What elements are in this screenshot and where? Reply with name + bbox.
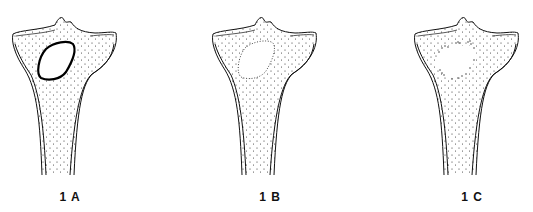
figure-1c: 1 C (402, 0, 533, 212)
figure-label: 1 C (402, 190, 533, 204)
figure-1a: 1 A (0, 0, 140, 212)
tibia-illustration (0, 0, 140, 190)
figure-label: 1 B (200, 190, 340, 204)
tibia-illustration (402, 0, 533, 190)
figure-label: 1 A (0, 190, 140, 204)
tibia-illustration (200, 0, 340, 190)
figure-1b: 1 B (200, 0, 340, 212)
